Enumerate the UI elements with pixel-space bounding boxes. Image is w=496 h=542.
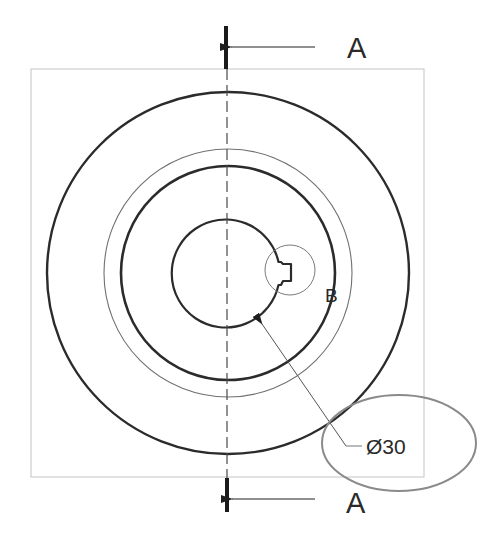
middle-circle: [121, 166, 335, 380]
bore-with-keyway: [172, 219, 291, 327]
outer-circle: [47, 92, 409, 454]
dimension-leader: [262, 324, 346, 446]
detail-label-b: B: [325, 285, 338, 306]
section-marker-top: A: [226, 26, 367, 69]
dimension-text: Ø30: [366, 435, 406, 458]
section-drawing: B A A Ø30: [0, 0, 496, 542]
section-marker-bottom: A: [227, 478, 366, 519]
section-label-top: A: [347, 32, 367, 64]
diameter-dimension: Ø30: [262, 324, 406, 458]
section-label-bottom: A: [346, 487, 366, 519]
